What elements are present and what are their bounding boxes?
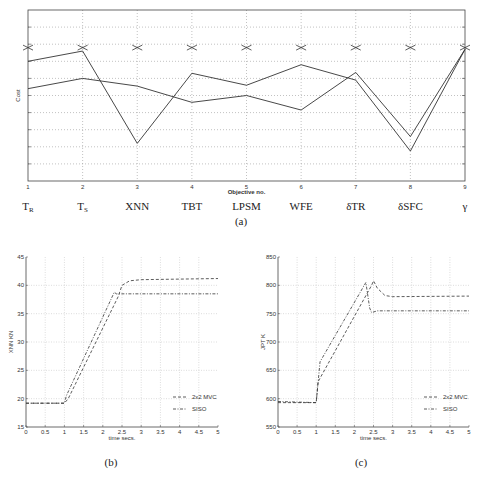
x-tick-label: 2 (101, 429, 105, 435)
x-tick-label: 3.5 (156, 429, 165, 435)
x-tick-label: 3 (391, 429, 395, 435)
y-axis-label: XNN KN (8, 331, 14, 354)
x-tick-label: 2 (81, 184, 85, 190)
chart-b-xnn-response: 00.511.522.533.544.5515202530354045time … (8, 254, 220, 469)
caption-c: (c) (355, 456, 368, 469)
legend-label: SISO (192, 406, 207, 412)
x-tick-label: 3.5 (408, 429, 417, 435)
category-label: TS (77, 200, 88, 214)
y-tick-label: 15 (17, 424, 24, 430)
y-tick-label: 45 (17, 254, 24, 260)
legend-label: SISO (443, 406, 458, 412)
chart-c-jpt-response: 00.511.522.533.544.555506006507007508008… (260, 254, 471, 469)
x-tick-label: 5 (467, 429, 471, 435)
category-label: γ (462, 200, 468, 212)
y-axis-label: Cost (15, 89, 21, 102)
legend-label: 2x2 MVC (443, 394, 468, 400)
x-tick-label: 9 (463, 184, 467, 190)
x-tick-label: 2 (353, 429, 357, 435)
y-tick-label: 750 (266, 311, 277, 317)
x-tick-label: 5 (216, 429, 220, 435)
x-tick-label: 1 (63, 429, 67, 435)
x-axis-label: time secs. (108, 435, 135, 441)
category-label: δSFC (398, 200, 423, 212)
y-tick-label: 700 (266, 339, 277, 345)
y-tick-label: 600 (266, 396, 277, 402)
y-tick-label: 800 (266, 282, 277, 288)
x-tick-label: 0 (276, 429, 280, 435)
x-tick-label: 7 (354, 184, 358, 190)
x-tick-label: 0 (24, 429, 28, 435)
legend-label: 2x2 MVC (192, 394, 217, 400)
y-tick-label: 40 (17, 282, 24, 288)
y-tick-label: 25 (17, 367, 24, 373)
x-tick-label: 0.5 (41, 429, 50, 435)
x-tick-label: 1.5 (331, 429, 340, 435)
x-tick-label: 1.5 (79, 429, 88, 435)
x-tick-label: 4.5 (195, 429, 204, 435)
category-label: TBT (181, 200, 202, 212)
y-tick-label: 30 (17, 339, 24, 345)
x-tick-label: 8 (409, 184, 413, 190)
series-line (28, 49, 465, 136)
x-tick-label: 3 (136, 184, 140, 190)
series-line (278, 281, 469, 403)
category-label: TR (22, 200, 34, 214)
x-tick-label: 0.5 (293, 429, 302, 435)
y-tick-label: 20 (17, 396, 24, 402)
x-tick-label: 3 (140, 429, 144, 435)
category-label: δTR (346, 200, 366, 212)
x-tick-label: 4 (178, 429, 182, 435)
figure: 123456789Objective no.CostTRTSXNNTBTLPSM… (0, 0, 482, 477)
category-label: WFE (290, 200, 314, 212)
category-label: LPSM (232, 200, 261, 212)
y-axis-label: JPT K (260, 334, 266, 350)
x-axis-label: time secs. (360, 435, 387, 441)
y-tick-label: 35 (17, 311, 24, 317)
x-tick-label: 4.5 (446, 429, 455, 435)
chart-a-cost-vs-objective: 123456789Objective no.CostTRTSXNNTBTLPSM… (15, 10, 470, 228)
y-tick-label: 550 (266, 424, 277, 430)
caption-b: (b) (105, 456, 118, 469)
x-tick-label: 1 (315, 429, 319, 435)
caption-a: (a) (235, 215, 248, 228)
y-tick-label: 850 (266, 254, 277, 260)
x-tick-label: 4 (429, 429, 433, 435)
x-tick-label: 4 (190, 184, 194, 190)
category-label: XNN (125, 200, 149, 212)
x-axis-label: Objective no. (228, 189, 266, 195)
y-tick-label: 650 (266, 367, 277, 373)
x-tick-label: 1 (26, 184, 30, 190)
x-tick-label: 6 (299, 184, 303, 190)
